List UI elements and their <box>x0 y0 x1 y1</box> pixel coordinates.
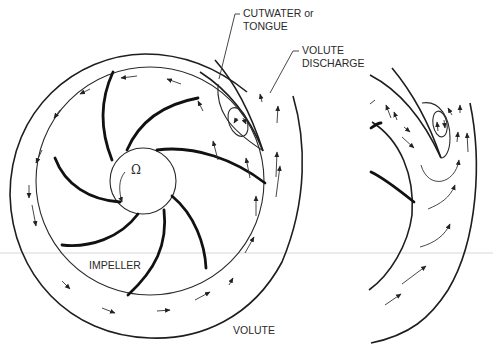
impeller-hub <box>110 148 176 214</box>
label-impeller: IMPELLER <box>89 259 141 271</box>
detail-streamline-3 <box>420 224 450 247</box>
main-view: Ω CUTWATER or TONGUE <box>10 7 364 338</box>
volute-outer-wall <box>10 54 302 338</box>
label-tongue: TONGUE <box>243 20 288 32</box>
label-cutwater: CUTWATER or <box>243 7 314 19</box>
omega-symbol: Ω <box>131 163 141 177</box>
detail-blade-2 <box>371 172 414 202</box>
label-volute-discharge: VOLUTE <box>302 44 344 56</box>
impeller-blades <box>55 72 265 295</box>
detail-outer-wall <box>371 103 476 343</box>
detail-eddy <box>431 110 449 138</box>
detail-streamline-2 <box>428 185 455 209</box>
label-discharge: DISCHARGE <box>302 57 364 69</box>
pump-diagram: Ω CUTWATER or TONGUE <box>0 0 493 351</box>
detail-impeller-edge <box>369 122 412 290</box>
detail-volute-wall <box>370 75 441 158</box>
tongue-streamline <box>218 84 262 150</box>
detail-view <box>369 68 476 343</box>
label-volute: VOLUTE <box>233 324 275 336</box>
discharge-leader <box>270 51 299 93</box>
detail-streamline-1 <box>421 160 459 181</box>
rotation-arrow <box>120 172 125 202</box>
